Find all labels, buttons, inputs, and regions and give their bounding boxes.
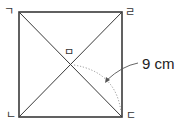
vertex-label-bottom-right: ㄷ (126, 110, 136, 121)
vertex-label-top-left: ㄱ (4, 6, 14, 17)
dotted-arc (74, 65, 121, 112)
vertex-label-bottom-left: ㄴ (6, 110, 16, 121)
measurement-label: 9 cm (142, 56, 175, 71)
center-label: ㅁ (64, 47, 74, 58)
vertex-label-top-right: ㄹ (125, 7, 135, 18)
